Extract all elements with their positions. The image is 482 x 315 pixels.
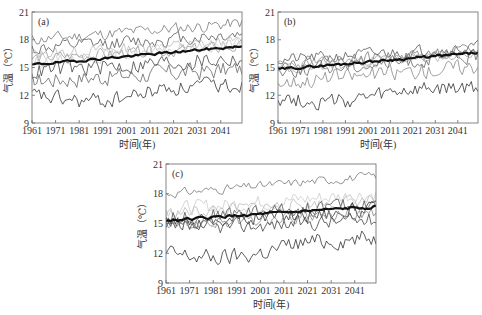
x-tick-label: 2021 [164,125,184,136]
x-tick-label: 2041 [345,285,365,296]
x-tick-label: 2041 [211,125,231,136]
y-axis-label: 气温（℃） [248,42,260,93]
y-axis-label: 气温（℃） [136,198,148,249]
x-tick-label: 2001 [358,125,378,136]
y-tick-label: 15 [153,218,163,229]
series-group [32,19,242,107]
x-tick-label: 1991 [335,125,355,136]
y-axis-label: 气温（℃） [2,42,14,93]
model-line [166,231,376,265]
x-tick-label: 2011 [381,125,401,136]
chart-panel-a: (a)9121518211961197119811991200120112021… [2,7,242,152]
panel-label: (a) [38,16,49,28]
model-line [32,40,242,62]
figure-canvas: (a)9121518211961197119811991200120112021… [0,0,482,315]
y-tick-label: 18 [265,34,275,45]
x-tick-label: 1961 [268,125,288,136]
x-tick-label: 2031 [321,285,341,296]
x-tick-label: 1971 [46,125,66,136]
model-line [166,172,376,198]
x-tick-label: 2001 [250,285,270,296]
x-tick-label: 1981 [203,285,223,296]
plot-frame [32,12,242,123]
x-tick-label: 2031 [187,125,207,136]
y-tick-label: 21 [265,7,275,18]
x-tick-label: 1991 [227,285,247,296]
x-tick-label: 1971 [290,125,310,136]
y-tick-label: 12 [19,90,29,101]
series-group [166,172,376,265]
model-line [32,63,242,88]
x-tick-label: 2001 [116,125,136,136]
panel-label: (b) [284,16,296,28]
model-line [278,40,478,64]
y-tick-label: 18 [19,34,29,45]
x-axis-label: 时间(年) [119,138,156,151]
x-tick-label: 2011 [140,125,160,136]
x-tick-label: 1991 [93,125,113,136]
x-tick-label: 2041 [448,125,468,136]
model-line [32,31,242,54]
ensemble-mean-line [32,46,242,64]
y-tick-label: 21 [153,159,163,170]
y-tick-label: 12 [153,248,163,259]
y-tick-label: 15 [265,62,275,73]
y-tick-label: 18 [153,188,163,199]
panel-label: (c) [172,168,183,180]
chart-panel-b: (b)9121518211961197119811991200120112021… [248,7,478,152]
x-tick-label: 1971 [180,285,200,296]
x-tick-label: 1981 [313,125,333,136]
x-tick-label: 1981 [69,125,89,136]
model-line [278,82,478,111]
x-tick-label: 2031 [425,125,445,136]
chart-panel-c: (c)9121518211961197119811991200120112021… [136,159,376,312]
x-tick-label: 2021 [298,285,318,296]
x-tick-label: 1961 [156,285,176,296]
x-tick-label: 2011 [274,285,294,296]
y-tick-label: 15 [19,62,29,73]
y-tick-label: 12 [265,90,275,101]
model-line [32,55,242,78]
x-axis-label: 时间(年) [253,298,290,311]
y-tick-label: 21 [19,7,29,18]
series-group [278,40,478,110]
x-axis-label: 时间(年) [360,138,397,151]
x-tick-label: 1961 [22,125,42,136]
x-tick-label: 2021 [403,125,423,136]
